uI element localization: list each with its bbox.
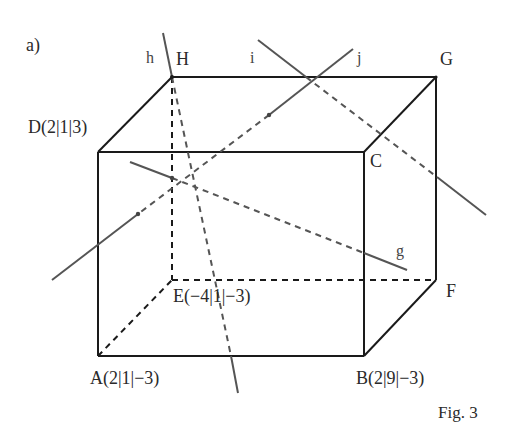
- edge-AE: [98, 280, 172, 356]
- vertex-label-E: E(−4|1|−3): [173, 287, 251, 305]
- edge-DH: [98, 77, 172, 152]
- vertex-label-H: H: [176, 50, 189, 68]
- line-label-h: h: [146, 50, 154, 66]
- vertex-label-C: C: [370, 152, 382, 170]
- vertex-label-A: A(2|1|−3): [90, 369, 159, 387]
- vertex-label-D: D(2|1|3): [28, 118, 87, 136]
- edge-BF: [364, 280, 436, 356]
- vertex-H-dot: [170, 75, 174, 79]
- line-h: [163, 33, 238, 393]
- point-j-2: [136, 212, 140, 216]
- point-g: [170, 176, 174, 180]
- figure-caption: Fig. 3: [438, 404, 478, 421]
- vertex-label-G: G: [440, 50, 453, 68]
- vertex-G-dot: [434, 75, 437, 78]
- vertex-label-B: B(2|9|−3): [356, 369, 424, 387]
- line-label-g: g: [396, 243, 404, 259]
- visible-edges: [98, 77, 436, 356]
- line-label-j: j: [357, 50, 361, 66]
- point-j-1: [267, 113, 271, 117]
- part-label: a): [26, 36, 40, 54]
- vertex-label-F: F: [446, 282, 456, 300]
- hidden-edges: [98, 77, 436, 356]
- edge-CG: [364, 77, 436, 152]
- line-label-i: i: [250, 50, 254, 66]
